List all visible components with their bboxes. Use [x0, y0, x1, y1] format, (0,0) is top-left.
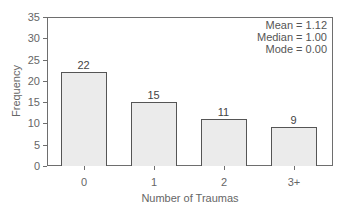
- x-axis-title: Number of Traumas: [47, 192, 333, 204]
- y-tick-label: 5: [10, 139, 40, 151]
- y-tick: [43, 60, 47, 61]
- x-tick: [224, 166, 225, 170]
- bar-value-label: 11: [201, 106, 246, 118]
- y-tick-label: 35: [10, 11, 40, 23]
- bar-0: [61, 72, 107, 166]
- y-tick: [43, 81, 47, 82]
- x-tick: [154, 166, 155, 170]
- y-tick: [43, 123, 47, 124]
- x-tick: [294, 166, 295, 170]
- mean-label: Mean = 1.12: [257, 19, 327, 31]
- y-tick-label: 0: [10, 160, 40, 172]
- bar-value-label: 9: [271, 114, 316, 126]
- bar-3: [271, 127, 317, 166]
- x-tick-label: 2: [204, 176, 244, 188]
- bar-value-label: 22: [61, 59, 106, 71]
- y-tick-label: 30: [10, 32, 40, 44]
- summary-stats: Mean = 1.12 Median = 1.00 Mode = 0.00: [257, 19, 327, 55]
- y-tick: [43, 166, 47, 167]
- median-label: Median = 1.00: [257, 31, 327, 43]
- bar-2: [201, 119, 247, 166]
- y-axis-title: Frequency: [10, 61, 22, 121]
- mode-label: Mode = 0.00: [257, 43, 327, 55]
- y-tick: [43, 38, 47, 39]
- y-tick: [43, 145, 47, 146]
- x-tick-label: 0: [64, 176, 104, 188]
- x-tick-label: 1: [134, 176, 174, 188]
- y-tick: [43, 17, 47, 18]
- bar-1: [131, 102, 177, 166]
- x-tick-label: 3+: [274, 176, 314, 188]
- x-tick: [84, 166, 85, 170]
- bar-value-label: 15: [131, 89, 176, 101]
- y-tick: [43, 102, 47, 103]
